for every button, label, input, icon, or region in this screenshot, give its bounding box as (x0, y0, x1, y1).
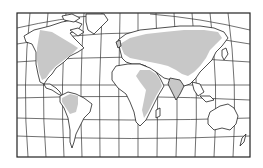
world-map (0, 0, 263, 168)
